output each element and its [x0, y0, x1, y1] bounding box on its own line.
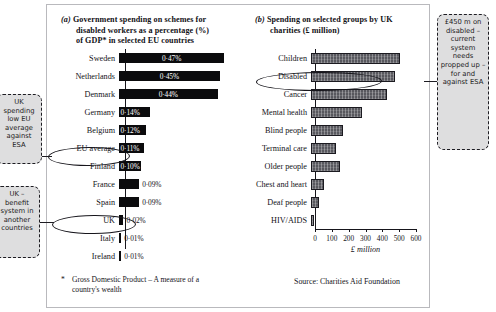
chart-a-bar-wrap: 0·14% — [119, 103, 243, 121]
chart-a-value-label: 0·01% — [124, 234, 143, 243]
chart-a-bar: 0·14% — [119, 107, 150, 118]
chart-a-row: Spain0·09% — [53, 193, 243, 211]
chart-b-x-tick — [349, 229, 350, 232]
chart-b-x-tick-label: 100 — [326, 234, 337, 243]
chart-a-bar-wrap: 0·01% — [119, 229, 243, 247]
chart-b-category-label: Older people — [243, 162, 311, 171]
chart-a-value-label: 0·09% — [142, 198, 161, 207]
chart-a-tag: (a) — [61, 15, 71, 24]
chart-a-value-label: 0·09% — [142, 180, 161, 189]
chart-b-bar — [311, 197, 319, 208]
chart-b-bar — [311, 71, 395, 82]
chart-a-bar: 0·10% — [119, 161, 141, 172]
chart-b-row: Mental health — [243, 103, 425, 121]
chart-a-value-label: 0·45% — [160, 72, 179, 81]
chart-b-category-label: Children — [243, 54, 311, 63]
chart-b-title: (b) Spending on selected groups by UK ch… — [255, 15, 415, 36]
chart-b-title-line1: Spending on selected groups by UK — [267, 15, 393, 24]
chart-b-bar-wrap — [311, 49, 425, 67]
chart-b-row: Cancer — [243, 85, 425, 103]
chart-a-row: Netherlands0·45% — [53, 67, 243, 85]
chart-a-row: Italy0·01% — [53, 229, 243, 247]
chart-a-category-label: Germany — [53, 108, 119, 117]
chart-a-row: Ireland0·01% — [53, 247, 243, 265]
chart-a-bar-wrap: 0·12% — [119, 121, 243, 139]
chart-a-value-label: 0·10% — [121, 162, 140, 171]
chart-b-bar-wrap — [311, 85, 425, 103]
chart-a-value-label: 0·01% — [124, 252, 143, 261]
chart-b-bar — [311, 161, 340, 172]
chart-a-category-label: Netherlands — [53, 72, 119, 81]
chart-a-bar: 0·45% — [119, 71, 220, 82]
footnote-marker: * — [61, 275, 65, 285]
chart-a-bar: 0·01% — [119, 233, 121, 244]
chart-b-tag: (b) — [255, 15, 265, 24]
chart-b-x-axis-label: £ million — [315, 245, 416, 254]
chart-a-category-label: EU average — [53, 144, 119, 153]
chart-b-row: Blind people — [243, 121, 425, 139]
chart-b-bar — [311, 107, 362, 118]
chart-a-bar: 0·12% — [119, 125, 146, 136]
chart-a-bar-wrap: 0·44% — [119, 85, 243, 103]
chart-b-title-line2: charities (£ million) — [255, 26, 415, 37]
chart-a-value-label: 0·44% — [159, 90, 178, 99]
leader-line-left-bottom — [38, 222, 54, 223]
chart-a-bar: 0·09% — [119, 179, 139, 190]
chart-a-category-label: Italy — [53, 234, 119, 243]
note-uk-benefit-system[interactable]: UK – benefit system in another countries — [0, 186, 40, 258]
chart-a-title-line1: Government spending on schemes for — [73, 15, 206, 24]
chart-b-row: Older people — [243, 157, 425, 175]
chart-b-bar-wrap — [311, 175, 425, 193]
chart-b-row: Disabled — [243, 67, 425, 85]
chart-b-row: HIV/AIDS — [243, 211, 425, 229]
chart-b-category-label: Blind people — [243, 126, 311, 135]
chart-a-row: France0·09% — [53, 175, 243, 193]
chart-a-category-label: Belgium — [53, 126, 119, 135]
chart-a-row: Belgium0·12% — [53, 121, 243, 139]
chart-a-bar-wrap: 0·09% — [119, 175, 243, 193]
chart-a-row: Sweden0·47% — [53, 49, 243, 67]
chart-b-x-tick-label: 0 — [313, 234, 317, 243]
chart-a-category-label: France — [53, 180, 119, 189]
chart-a-row: Finland0·10% — [53, 157, 243, 175]
chart-a-value-label: 0·12% — [121, 126, 140, 135]
chart-b-bar-wrap — [311, 139, 425, 157]
note-450m-disabled[interactable]: £450 m on disabled – current system need… — [437, 14, 489, 150]
chart-b-x-tick-label: 600 — [411, 234, 422, 243]
chart-b-category-label: Deaf people — [243, 198, 311, 207]
chart-a-row: UK0·02% — [53, 211, 243, 229]
chart-b-bar-wrap — [311, 157, 425, 175]
chart-b-bar — [311, 53, 400, 64]
chart-a-row: Germany0·14% — [53, 103, 243, 121]
chart-b-row: Children — [243, 49, 425, 67]
chart-a-title-line3: of GDP* in selected EU countries — [61, 36, 251, 47]
chart-b-x-tick — [332, 229, 333, 232]
note-uk-spending-low[interactable]: UK spending low EU average against ESA — [0, 94, 42, 164]
chart-a-bar-wrap: 0·45% — [119, 67, 243, 85]
chart-b-x-tick-label: 400 — [377, 234, 388, 243]
chart-b-row: Deaf people — [243, 193, 425, 211]
chart-b-x-tick — [416, 229, 417, 232]
chart-a-category-label: Spain — [53, 198, 119, 207]
chart-a-category-label: UK — [53, 216, 119, 225]
chart-a-bar: 0·47% — [119, 53, 224, 64]
chart-a-category-label: Denmark — [53, 90, 119, 99]
chart-a-title: (a) Government spending on schemes for d… — [61, 15, 251, 47]
chart-b-x-tick — [366, 229, 367, 232]
chart-b-category-label: Cancer — [243, 90, 311, 99]
footnote: * Gross Domestic Product – A measure of … — [61, 275, 241, 294]
chart-a-bar-wrap: 0·47% — [119, 49, 243, 67]
chart-b-category-label: Chest and heart — [243, 180, 311, 189]
chart-b-bar — [311, 89, 387, 100]
chart-a-bar: 0·09% — [119, 197, 139, 208]
chart-a-value-label: 0·02% — [126, 216, 145, 225]
chart-a-category-label: Ireland — [53, 252, 119, 261]
chart-b-x-tick — [399, 229, 400, 232]
chart-a-value-label: 0·11% — [121, 144, 140, 153]
chart-a-bar: 0·02% — [119, 215, 123, 226]
chart-b-bar — [311, 125, 343, 136]
footnote-line1: Gross Domestic Product – A measure of a — [61, 275, 241, 285]
chart-a-category-label: Finland — [53, 162, 119, 171]
chart-b-bar-wrap — [311, 67, 425, 85]
chart-a-value-label: 0·14% — [121, 108, 140, 117]
